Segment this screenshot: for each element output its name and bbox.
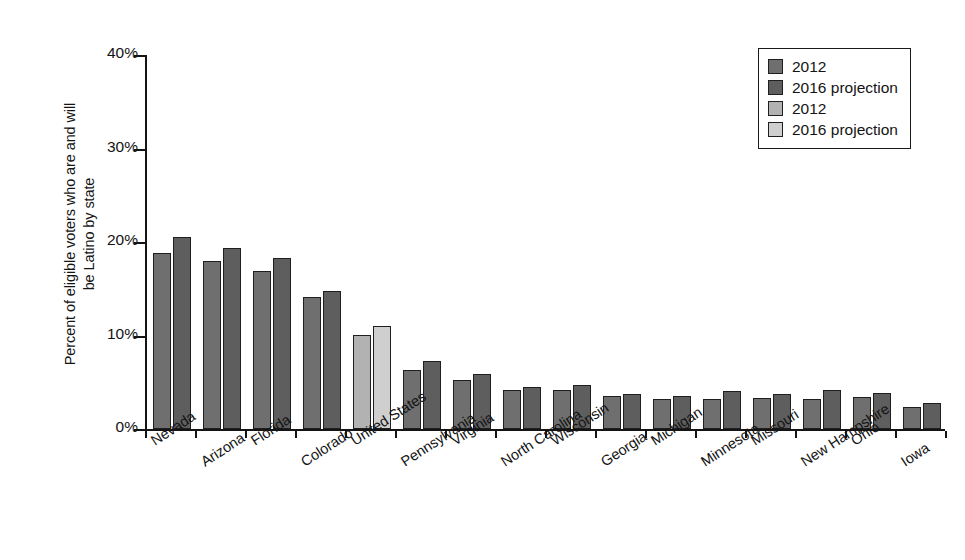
bar-group (297, 55, 347, 429)
legend-item: 2016 projection (768, 119, 898, 140)
bar (323, 291, 342, 429)
bar (203, 261, 222, 429)
bar (273, 258, 292, 429)
bar (353, 335, 372, 429)
y-tick-label: 20% (107, 231, 138, 249)
bar (153, 253, 172, 429)
bar-group (197, 55, 247, 429)
bar (173, 237, 192, 429)
bar-group (697, 55, 747, 429)
y-tick-label: 40% (107, 44, 138, 62)
bar-group (347, 55, 397, 429)
legend-item: 2012 (768, 56, 898, 77)
x-axis-labels: NevadaArizonaFloridaColoradoUnited State… (145, 430, 965, 550)
bar (923, 403, 942, 429)
bar-group (397, 55, 447, 429)
chart-legend: 20122016 projection20122016 projection (758, 48, 911, 149)
legend-label: 2016 projection (792, 121, 898, 139)
bar-group (597, 55, 647, 429)
bar (823, 390, 842, 429)
bar (623, 394, 642, 429)
bar (423, 361, 442, 429)
bar (303, 297, 322, 429)
bar-chart-figure: Percent of eligible voters who are and w… (0, 0, 965, 560)
legend-swatch-icon (768, 59, 783, 74)
legend-label: 2016 projection (792, 79, 898, 97)
bar-group (497, 55, 547, 429)
bar (523, 387, 542, 429)
y-tick-label: 30% (107, 138, 138, 156)
bar-group (647, 55, 697, 429)
bar-group (447, 55, 497, 429)
x-axis-label: Arizona (198, 430, 247, 470)
bar-group (247, 55, 297, 429)
legend-swatch-icon (768, 101, 783, 116)
legend-item: 2016 projection (768, 77, 898, 98)
legend-swatch-icon (768, 122, 783, 137)
y-axis-title: Percent of eligible voters who are and w… (61, 34, 99, 434)
legend-swatch-icon (768, 80, 783, 95)
bar (723, 391, 742, 429)
y-tick-label: 10% (107, 325, 138, 343)
bar (223, 248, 242, 429)
bar (803, 399, 822, 429)
bar (903, 407, 922, 429)
legend-item: 2012 (768, 98, 898, 119)
x-axis-label: Colorado (298, 424, 355, 469)
y-tick-label: 0% (116, 418, 138, 436)
bar (253, 271, 272, 429)
bar (703, 399, 722, 429)
legend-label: 2012 (792, 58, 826, 76)
legend-label: 2012 (792, 100, 826, 118)
x-axis-label: Georgia (598, 428, 649, 469)
x-axis-label: Iowa (898, 440, 932, 470)
bar-group (547, 55, 597, 429)
bar (503, 390, 522, 429)
bar-group (147, 55, 197, 429)
